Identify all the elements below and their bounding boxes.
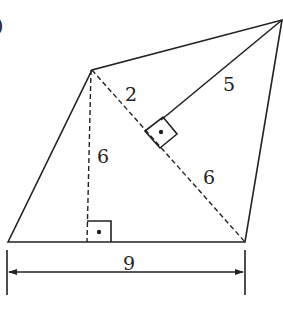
diagonal-dashed [92,70,245,242]
figure-label-partial: ) [0,14,3,36]
right-angle-dot-diagonal [159,130,163,134]
geometry-diagram: ) 2 5 6 6 9 [0,0,283,315]
label-2: 2 [125,83,137,105]
label-height-6: 6 [97,145,109,167]
label-base-9: 9 [123,252,135,274]
height-dashed [87,70,91,242]
label-5: 5 [223,73,235,95]
perpendicular-line [161,20,282,120]
right-angle-dot-base [97,230,101,234]
label-diagonal-6: 6 [203,166,215,188]
arrow-right-icon [235,269,244,275]
arrow-left-icon [8,269,17,275]
